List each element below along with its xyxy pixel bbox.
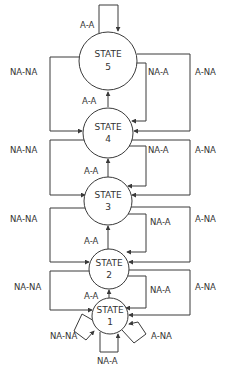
label-naa: NA-A: [97, 356, 118, 366]
state-title: STATE: [95, 258, 122, 268]
transition-4-3-nana: NA-NA: [10, 140, 86, 195]
label-naa: NA-A: [150, 217, 171, 227]
state-title: STATE: [94, 49, 121, 59]
label-aa: A-A: [84, 291, 99, 301]
transition-1-1-nana: NA-NA: [50, 314, 96, 341]
label-aa: A-A: [84, 166, 99, 176]
transition-2-1-naa: NA-A: [126, 276, 171, 308]
state-number: 4: [105, 134, 111, 144]
label-aa: A-A: [82, 96, 97, 106]
state-number: 3: [105, 202, 111, 212]
transition-1-1-ana: A-NA: [122, 322, 172, 343]
transition-2-1-nana: NA-NA: [14, 271, 92, 310]
state-4: STATE 4: [83, 108, 133, 158]
state-1: STATE 1: [92, 298, 128, 334]
state-diagram: A-A NA-NA NA-A A-NA A-A NA-NA NA-A A-NA …: [0, 0, 232, 377]
label-nana: NA-NA: [10, 145, 37, 155]
state-5: STATE 5: [79, 32, 137, 90]
transition-3-4-aa: A-A: [84, 159, 108, 177]
label-nana: NA-NA: [10, 67, 37, 77]
transition-4-5-aa: A-A: [82, 92, 108, 107]
label-ana: A-NA: [195, 282, 216, 292]
transition-3-2-nana: NA-NA: [10, 208, 89, 262]
label-ana: A-NA: [151, 331, 172, 341]
state-number: 2: [106, 270, 112, 280]
label-nana: NA-NA: [14, 282, 41, 292]
state-number: 5: [105, 62, 111, 72]
transition-1-1-naa: NA-A: [97, 332, 118, 366]
label-ana: A-NA: [195, 214, 216, 224]
transition-5-4-nana: NA-NA: [10, 57, 82, 131]
transition-3-2-ana: A-NA: [129, 207, 216, 262]
state-2: STATE 2: [89, 249, 129, 289]
transition-5-5-aa: A-A: [80, 5, 118, 33]
state-title: STATE: [96, 305, 123, 315]
label-ana: A-NA: [195, 145, 216, 155]
state-3: STATE 3: [84, 177, 132, 225]
transition-2-3-aa: A-A: [84, 226, 108, 249]
label-ana: A-NA: [195, 67, 216, 77]
transition-5-4-naa: NA-A: [132, 63, 169, 121]
transition-4-3-naa: NA-A: [128, 145, 169, 186]
label-aa: A-A: [84, 236, 99, 246]
state-title: STATE: [94, 122, 121, 132]
label-naa: NA-A: [148, 145, 169, 155]
label-nana: NA-NA: [10, 214, 37, 224]
label-naa: NA-A: [148, 67, 169, 77]
transition-3-2-naa: NA-A: [127, 214, 171, 252]
label-naa: NA-A: [150, 285, 171, 295]
state-title: STATE: [94, 190, 121, 200]
label-nana: NA-NA: [50, 331, 77, 341]
transition-4-3-ana: A-NA: [131, 140, 216, 195]
state-number: 1: [107, 317, 113, 327]
label-aa: A-A: [80, 20, 95, 30]
